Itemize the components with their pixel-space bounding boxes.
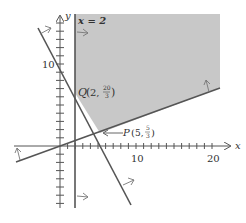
svg-text:3: 3 (105, 92, 109, 99)
x-tick-label-20: 20 (207, 153, 220, 164)
svg-text:): ) (111, 86, 115, 99)
y-axis (56, 16, 64, 208)
direction-arrow-icon (123, 178, 134, 185)
svg-text:2,: 2, (90, 87, 100, 98)
svg-text:20: 20 (103, 84, 111, 91)
x-axis (14, 143, 230, 149)
x-tick-label-10: 10 (131, 153, 144, 164)
direction-arrow-icon (15, 148, 21, 160)
svg-text:5: 5 (146, 124, 150, 131)
y-axis-label: y (64, 10, 71, 21)
svg-text:3: 3 (146, 132, 150, 139)
point-label-p: P ( 5, 5 3 ) (122, 124, 155, 139)
direction-arrow-icon (40, 26, 51, 34)
feasible-region-graph: y x 10 10 20 x = 2 Q ( 2, 20 3 ) P ( 5, … (0, 0, 246, 223)
x-axis-label: x (235, 140, 241, 151)
y-tick-label-10: 10 (42, 59, 55, 70)
svg-text:P: P (122, 127, 130, 138)
direction-arrow-icon (77, 193, 88, 200)
svg-text:): ) (151, 127, 155, 138)
svg-text:5,: 5, (135, 128, 144, 138)
boundary-label-x-equals-2: x = 2 (77, 15, 106, 26)
